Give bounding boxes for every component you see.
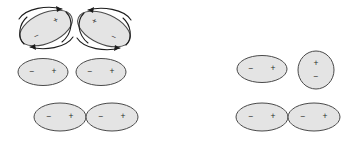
positive-charge-label: + — [323, 111, 328, 121]
negative-charge-label: − — [314, 71, 319, 81]
dipole-horizontal: + − — [86, 103, 138, 131]
group-bottom-right: + − + − — [236, 103, 340, 131]
negative-charge-label: − — [301, 111, 306, 121]
dipole-body — [72, 4, 135, 54]
dipole-horizontal: + − — [237, 56, 287, 83]
positive-charge-label: + — [314, 58, 319, 68]
positive-charge-label: + — [69, 111, 74, 121]
dipole-vertical-end-on: + − — [298, 51, 334, 89]
negative-charge-label: − — [88, 66, 93, 76]
negative-charge-label: − — [99, 111, 104, 121]
positive-charge-label: + — [121, 111, 126, 121]
dipole-horizontal: + − — [288, 103, 340, 131]
negative-charge-label: − — [249, 111, 254, 121]
negative-charge-label: − — [249, 63, 254, 73]
dipole-diagram-canvas: + − — [0, 0, 349, 143]
dipole-body — [236, 103, 288, 131]
dipole-body — [86, 103, 138, 131]
dipole-body — [76, 59, 126, 86]
dipole-horizontal: + − — [18, 59, 68, 86]
dipole-horizontal: + − — [236, 103, 288, 131]
dipole-body — [34, 103, 86, 131]
group-middle-right: + − + − — [237, 51, 334, 89]
dipole-horizontal: + − — [76, 59, 126, 86]
positive-charge-label: + — [271, 111, 276, 121]
positive-charge-label: + — [271, 63, 276, 73]
dipole-tilted-ccw: + − — [14, 3, 77, 53]
dipole-body — [298, 51, 334, 89]
dipole-body — [288, 103, 340, 131]
negative-charge-label: − — [47, 111, 52, 121]
group-middle-left: + − + − — [18, 59, 126, 86]
dipole-body — [18, 59, 68, 86]
dipole-diagram: + − — [0, 0, 349, 143]
negative-charge-label: − — [30, 66, 35, 76]
group-bottom-left: + − + − — [34, 103, 138, 131]
dipole-horizontal: + − — [34, 103, 86, 131]
positive-charge-label: + — [110, 66, 115, 76]
positive-charge-label: + — [52, 66, 57, 76]
dipole-body — [237, 56, 287, 83]
dipole-body — [14, 3, 77, 53]
group-top-left: + − — [14, 3, 135, 54]
dipole-tilted-cw: + − — [72, 4, 135, 54]
